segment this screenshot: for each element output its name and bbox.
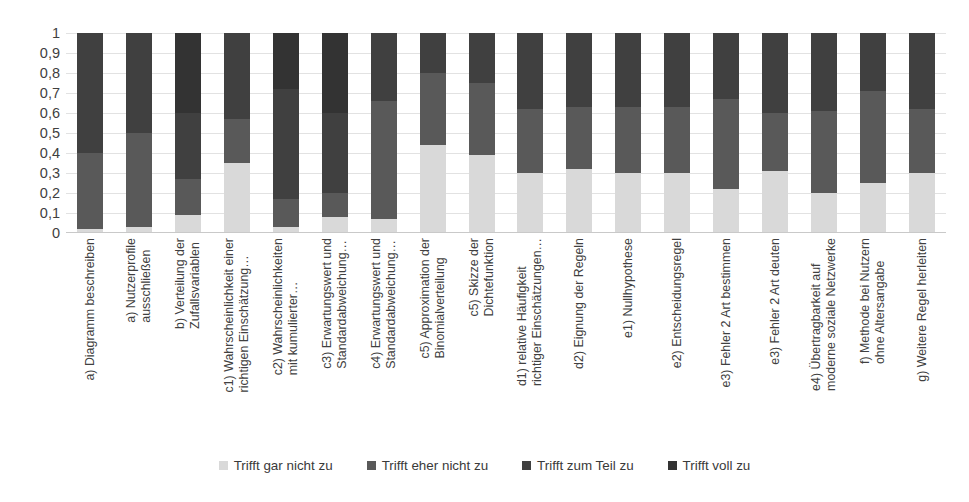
legend-label: Trifft voll zu — [683, 458, 751, 473]
bar-segment[interactable] — [273, 199, 299, 227]
bar-segment[interactable] — [762, 33, 788, 113]
bar-slot — [310, 33, 359, 233]
bar-segment[interactable] — [469, 155, 495, 233]
bar-segment[interactable] — [664, 173, 690, 233]
bar-segment[interactable] — [469, 83, 495, 155]
legend-item[interactable]: Trifft gar nicht zu — [219, 458, 333, 473]
bar-segment[interactable] — [811, 193, 837, 233]
bar-segment[interactable] — [77, 33, 103, 153]
bar-segment[interactable] — [126, 133, 152, 227]
bar-segment[interactable] — [517, 33, 543, 109]
stacked-bar[interactable] — [664, 33, 690, 233]
bar-segment[interactable] — [762, 113, 788, 171]
bar-segment[interactable] — [224, 119, 250, 163]
y-axis-tick-label: 0,9 — [40, 46, 60, 61]
stacked-bar[interactable] — [420, 33, 446, 233]
bar-segment[interactable] — [273, 89, 299, 199]
stacked-bar[interactable] — [175, 33, 201, 233]
bar-segment[interactable] — [517, 173, 543, 233]
bar-segment[interactable] — [713, 99, 739, 189]
stacked-bar[interactable] — [566, 33, 592, 233]
stacked-bar[interactable] — [615, 33, 641, 233]
y-axis-tick-label: 0,6 — [40, 106, 60, 121]
bar-segment[interactable] — [371, 33, 397, 101]
y-axis-tick-label: 0,5 — [40, 126, 60, 141]
bar-segment[interactable] — [224, 163, 250, 233]
bar-segment[interactable] — [713, 33, 739, 99]
stacked-bar[interactable] — [126, 33, 152, 233]
bar-slot — [702, 33, 751, 233]
bar-segment[interactable] — [909, 173, 935, 233]
bar-segment[interactable] — [77, 153, 103, 229]
bar-slot — [897, 33, 946, 233]
stacked-bar[interactable] — [517, 33, 543, 233]
x-axis-labels: a) Diagramm beschreibena) Nutzerprofile … — [66, 238, 946, 446]
x-axis-label: e3) Fehler 2 Art bestimmen — [719, 238, 734, 387]
x-axis-label: c3) Erwartungswert und Standardabweichun… — [320, 238, 350, 369]
bar-segment[interactable] — [566, 107, 592, 169]
x-axis-label: c4) Erwartungswert und Standardabweichun… — [369, 238, 399, 369]
bar-segment[interactable] — [566, 33, 592, 107]
legend-item[interactable]: Trifft eher nicht zu — [367, 458, 488, 473]
bar-segment[interactable] — [860, 33, 886, 91]
x-axis-label-slot: g) Weitere Regel herleiten — [897, 238, 946, 446]
bar-segment[interactable] — [224, 33, 250, 119]
legend-swatch-icon — [367, 461, 376, 470]
bar-segment[interactable] — [371, 101, 397, 219]
bar-segment[interactable] — [664, 107, 690, 173]
bar-segment[interactable] — [860, 91, 886, 183]
stacked-bar[interactable] — [469, 33, 495, 233]
bar-segment[interactable] — [371, 219, 397, 233]
bar-slot — [66, 33, 115, 233]
bar-segment[interactable] — [175, 179, 201, 215]
bar-segment[interactable] — [273, 33, 299, 89]
bar-segment[interactable] — [175, 215, 201, 233]
bar-segment[interactable] — [811, 111, 837, 193]
bar-segment[interactable] — [322, 33, 348, 113]
x-axis-label-slot: d1) relative Häufigkeit richtiger Einsch… — [506, 238, 555, 446]
bar-segment[interactable] — [420, 145, 446, 233]
bar-segment[interactable] — [909, 109, 935, 173]
stacked-bar[interactable] — [77, 33, 103, 233]
y-axis-tick-label: 0,4 — [40, 146, 60, 161]
bar-segment[interactable] — [126, 33, 152, 133]
bar-segment[interactable] — [420, 73, 446, 145]
stacked-bar[interactable] — [811, 33, 837, 233]
x-axis-label: a) Nutzerprofile ausschließen — [124, 238, 154, 323]
stacked-bar[interactable] — [224, 33, 250, 233]
stacked-bar[interactable] — [713, 33, 739, 233]
bar-segment[interactable] — [517, 109, 543, 173]
bar-segment[interactable] — [811, 33, 837, 111]
bar-segment[interactable] — [615, 33, 641, 107]
bar-segment[interactable] — [713, 189, 739, 233]
legend-item[interactable]: Trifft voll zu — [668, 458, 751, 473]
bar-segment[interactable] — [762, 171, 788, 233]
bar-segment[interactable] — [566, 169, 592, 233]
y-axis-tick-label: 0 — [52, 226, 60, 241]
y-axis-tick-label: 0,2 — [40, 186, 60, 201]
bar-segment[interactable] — [175, 113, 201, 179]
bar-segment[interactable] — [322, 193, 348, 217]
x-axis-label-slot: a) Nutzerprofile ausschließen — [115, 238, 164, 446]
bar-segment[interactable] — [322, 113, 348, 193]
bar-segment[interactable] — [615, 173, 641, 233]
bar-segment[interactable] — [615, 107, 641, 173]
bar-segment[interactable] — [420, 33, 446, 73]
bar-segment[interactable] — [860, 183, 886, 233]
stacked-bar[interactable] — [762, 33, 788, 233]
legend-item[interactable]: Trifft zum Teil zu — [522, 458, 634, 473]
legend-label: Trifft gar nicht zu — [234, 458, 333, 473]
stacked-bar[interactable] — [909, 33, 935, 233]
stacked-bar[interactable] — [860, 33, 886, 233]
x-axis-label-slot: e4) Übertragbarkeit auf moderne soziale … — [799, 238, 848, 446]
bar-segment[interactable] — [322, 217, 348, 233]
bar-segment[interactable] — [175, 33, 201, 113]
bar-segment[interactable] — [664, 33, 690, 107]
x-axis-label-slot: f) Methode bei Nutzern ohne Altersangabe — [848, 238, 897, 446]
stacked-bar[interactable] — [322, 33, 348, 233]
bar-segment[interactable] — [909, 33, 935, 109]
stacked-bar[interactable] — [273, 33, 299, 233]
x-axis-label: b) Verteilung der Zufallsvariablen — [173, 238, 203, 329]
stacked-bar[interactable] — [371, 33, 397, 233]
bar-segment[interactable] — [469, 33, 495, 83]
